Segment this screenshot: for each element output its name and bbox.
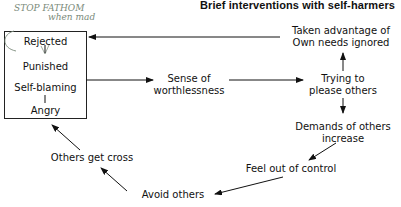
diagram-canvas: Brief interventions with self-harmers ST… — [0, 0, 401, 207]
connector-arrows — [0, 0, 401, 207]
